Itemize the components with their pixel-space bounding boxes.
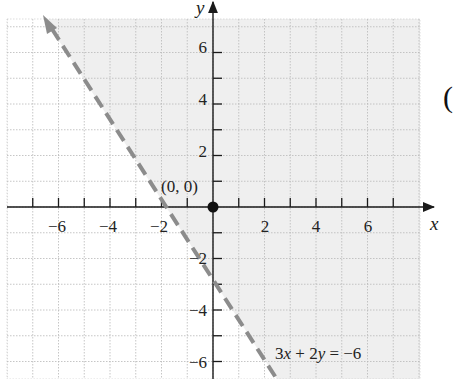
x-tick-label: −2 (150, 217, 168, 236)
y-tick-label: −4 (189, 301, 208, 320)
y-tick-label: −2 (189, 249, 207, 268)
x-axis-label: x (429, 213, 439, 234)
y-tick-label: 6 (199, 38, 208, 57)
y-tick-label: 2 (199, 142, 208, 161)
cropped-next-figure-paren: ( (443, 80, 453, 114)
equation-label: 3x + 2y = −6 (275, 344, 361, 363)
y-tick-label: 4 (199, 90, 208, 109)
y-tick-label: −6 (189, 353, 207, 372)
shaded-region (43, 16, 420, 379)
x-tick-label: −4 (99, 217, 118, 236)
x-tick-label: 4 (312, 217, 321, 236)
x-tick-label: 6 (364, 217, 373, 236)
y-axis-label: y (194, 0, 205, 18)
x-tick-label: 2 (261, 217, 270, 236)
origin-point-label: (0, 0) (161, 177, 198, 196)
x-tick-label: −6 (48, 217, 66, 236)
origin-test-point (208, 202, 219, 213)
